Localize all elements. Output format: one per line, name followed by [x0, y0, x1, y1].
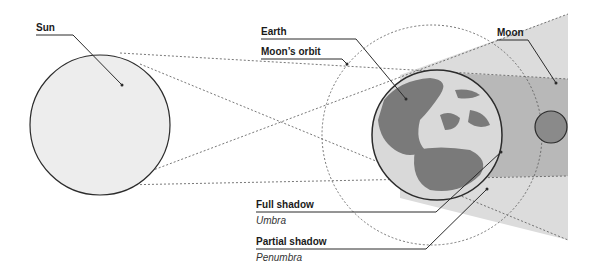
earth [372, 70, 502, 200]
eclipse-diagram [0, 0, 598, 272]
label-sun: Sun [36, 22, 55, 34]
label-earth: Earth [261, 26, 287, 38]
sun [30, 55, 170, 195]
label-moons-orbit: Moon’s orbit [261, 46, 321, 58]
label-full-shadow: Full shadow [256, 199, 314, 211]
label-umbra: Umbra [256, 215, 286, 227]
label-partial-shadow: Partial shadow [256, 236, 327, 248]
moon [535, 111, 567, 143]
label-moon: Moon [497, 27, 524, 39]
label-penumbra: Penumbra [256, 252, 302, 264]
